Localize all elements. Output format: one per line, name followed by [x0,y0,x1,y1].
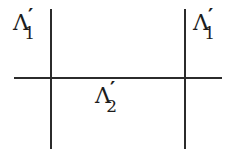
label-lambda-2-bottom: Λ′2 [95,80,127,111]
right-vertical-line [184,9,186,149]
label-lambda-1-left: Λ′1 [13,7,45,38]
subscript-left: 1 [24,23,35,43]
subscript-right: 1 [204,23,215,43]
math-diagram-figure: Λ′1 Λ′1 Λ′2 [0,0,235,149]
horizontal-line [14,77,222,79]
left-vertical-line [50,9,52,149]
label-lambda-1-right: Λ′1 [193,7,225,38]
subscript-bottom: 2 [106,96,117,116]
